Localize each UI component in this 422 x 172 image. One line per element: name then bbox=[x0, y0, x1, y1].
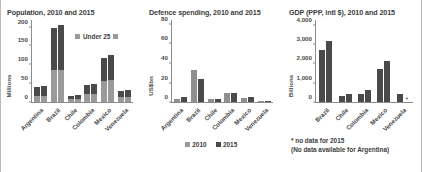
legend-swatch-light bbox=[75, 34, 80, 39]
legend-item-2015: 2015 bbox=[216, 141, 238, 148]
bar-argentina-2010 bbox=[174, 99, 180, 102]
x-label-chile: Chile bbox=[334, 106, 350, 122]
bar-brazil-2015 bbox=[326, 41, 332, 102]
y-axis-label-defence: US$bn bbox=[147, 76, 154, 96]
y-tick-200: 200 bbox=[18, 17, 31, 24]
bar-groups-gdp: * bbox=[316, 20, 413, 102]
x-axis-labels-defence: Argentina Brazil Chile Colombia Mexico V… bbox=[172, 104, 273, 144]
chart-panel-gdp: GDP (PPP, intl $), 2010 and 2015 Billion… bbox=[281, 0, 421, 172]
x-label-argentina: Argentina bbox=[19, 106, 44, 131]
bar-group-chile bbox=[335, 20, 354, 102]
chart-panel-population: Population, 2010 and 2015 Millions 0 50 … bbox=[1, 0, 141, 172]
y-axis-label-population: Millions bbox=[5, 74, 12, 97]
y-tick-60: 60 bbox=[161, 34, 171, 41]
legend-label-under-25: Under 25 bbox=[83, 33, 110, 40]
bar-group-chile bbox=[206, 20, 223, 102]
bar-brazil-2010 bbox=[319, 50, 325, 102]
bar-group-venezuela bbox=[256, 20, 273, 102]
y-tick-2000: 2,000 bbox=[297, 54, 315, 61]
y-tick-20: 20 bbox=[161, 73, 171, 80]
chart-title-population: Population, 2010 and 2015 bbox=[7, 8, 94, 17]
legend-label-2015: 2015 bbox=[223, 141, 237, 148]
legend-under-25: Under 25 bbox=[75, 33, 118, 40]
x-axis-labels-population: Argentina Brazil Chile Colombia Mexico V… bbox=[32, 104, 133, 144]
legend-swatch-2015 bbox=[216, 142, 221, 147]
chart-panel-defence: Defence spending, 2010 and 2015 US$bn 0 … bbox=[141, 0, 281, 172]
y-tick-150: 150 bbox=[18, 36, 31, 43]
legend-label-2010: 2010 bbox=[192, 141, 206, 148]
y-axis-label-gdp: Billions bbox=[287, 75, 294, 97]
y-tick-1000: 1,000 bbox=[297, 73, 315, 80]
y-tick-100: 100 bbox=[18, 55, 31, 62]
bar-group-colombia bbox=[355, 20, 374, 102]
plot-area-gdp: 0 1,000 2,000 3,000 4,000 bbox=[315, 20, 413, 103]
bar-colombia-2010 bbox=[358, 94, 364, 102]
x-label-brazil: Brazil bbox=[313, 106, 330, 123]
y-tick-0: 0 bbox=[309, 93, 315, 100]
y-tick-3000: 3,000 bbox=[297, 35, 315, 42]
bar-argentina-2010 bbox=[34, 87, 40, 102]
bar-group-brazil bbox=[316, 20, 335, 102]
legend-swatch-light-2 bbox=[113, 34, 118, 39]
figure-panel-group: Population, 2010 and 2015 Millions 0 50 … bbox=[0, 0, 422, 172]
bar-mexico-2015 bbox=[108, 55, 114, 102]
bar-groups-defence bbox=[172, 20, 273, 102]
footnote-no-data-argentina: (No data available for Argentina) bbox=[291, 145, 417, 154]
plot-area-defence: 0 20 40 60 80 bbox=[171, 20, 273, 103]
y-tick-4000: 4,000 bbox=[297, 15, 315, 22]
legend-years: 2010 2015 bbox=[141, 141, 281, 148]
x-label-argentina: Argentina bbox=[159, 106, 184, 131]
chart-footnotes: * no data for 2015 (No data available fo… bbox=[291, 136, 417, 154]
bar-group-argentina bbox=[32, 20, 49, 102]
legend-item-2010: 2010 bbox=[185, 141, 207, 148]
y-tick-50: 50 bbox=[21, 74, 31, 81]
bar-group-venezuela bbox=[116, 20, 133, 102]
bar-group-colombia bbox=[222, 20, 239, 102]
y-tick-80: 80 bbox=[161, 14, 171, 21]
footnote-no-data-2015: * no data for 2015 bbox=[291, 136, 417, 145]
y-tick-0: 0 bbox=[165, 93, 171, 100]
bar-group-argentina bbox=[172, 20, 189, 102]
legend-swatch-2010 bbox=[185, 142, 190, 147]
y-tick-0: 0 bbox=[25, 93, 31, 100]
chart-panels: Population, 2010 and 2015 Millions 0 50 … bbox=[1, 0, 421, 172]
y-tick-40: 40 bbox=[161, 53, 171, 60]
